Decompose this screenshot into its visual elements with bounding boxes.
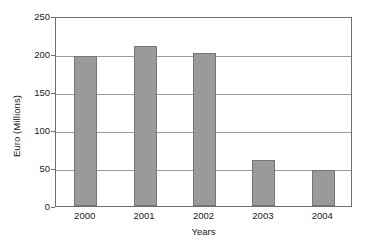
y-axis-tick-label: 250 — [24, 12, 50, 22]
x-axis-tick-label: 2001 — [117, 210, 171, 222]
y-axis-tick-label: 0 — [24, 202, 50, 212]
bar-chart: Euro (Millions) 050100150200250 20002001… — [0, 0, 369, 246]
x-axis-tick-labels: 20002001200220032004 — [55, 210, 352, 224]
bar — [74, 56, 97, 206]
x-axis-title: Years — [55, 226, 352, 238]
bar — [252, 160, 275, 206]
bars-layer — [56, 18, 351, 206]
bar — [134, 46, 157, 206]
y-axis-tick-labels: 050100150200250 — [22, 0, 50, 246]
y-axis-tick-label: 150 — [24, 88, 50, 98]
plot-area — [55, 17, 352, 207]
x-axis-tick-label: 2002 — [177, 210, 231, 222]
y-axis-tick-label: 50 — [24, 164, 50, 174]
bar — [312, 170, 335, 206]
y-axis-tick-label: 200 — [24, 50, 50, 60]
y-axis-tick-mark — [51, 207, 55, 208]
x-axis-tick-label: 2004 — [295, 210, 349, 222]
bar — [193, 53, 216, 206]
y-axis-tick-label: 100 — [24, 126, 50, 136]
x-axis-tick-label: 2003 — [236, 210, 290, 222]
x-axis-tick-label: 2000 — [58, 210, 112, 222]
